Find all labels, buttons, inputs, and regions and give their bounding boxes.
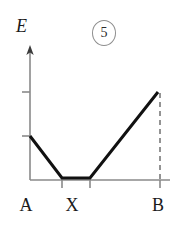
x-axis-label-a: A	[14, 196, 38, 214]
x-axis-label-b: B	[146, 196, 170, 214]
x-axis-label-x: X	[60, 196, 84, 214]
plot-area	[0, 0, 175, 225]
energy-curve	[30, 92, 158, 178]
energy-diagram-figure: E 5 A X B	[0, 0, 175, 225]
